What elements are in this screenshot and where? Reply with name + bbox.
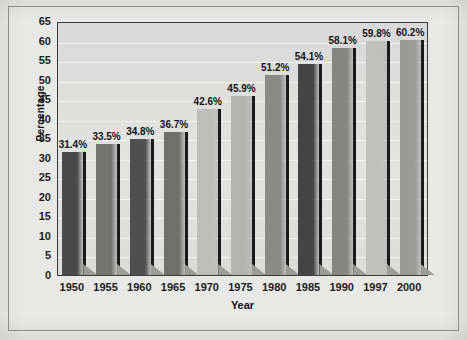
x-axis-tick-label: 1980 [257,282,291,293]
figure-canvas: Percentage 05101520253035404550556065 31… [0,0,467,340]
bar-fill [298,64,319,275]
y-axis-tick-label: 65 [25,16,51,27]
y-axis-tick-label: 0 [25,270,51,281]
y-axis-tick-label: 30 [25,153,51,164]
bar-side-edge [83,152,86,275]
bar-value-label: 60.2% [396,27,424,38]
bar[interactable]: 42.6% [197,109,218,275]
bar-value-label: 42.6% [194,96,222,107]
bar-value-label: 59.8% [362,28,390,39]
bar-fill [400,40,421,275]
y-axis-tick-label: 25 [25,172,51,183]
bar-value-label: 54.1% [295,51,323,62]
bar-value-label: 58.1% [328,35,356,46]
bar-fill [164,132,185,275]
y-axis-tick-label: 50 [25,75,51,86]
bar-fill [130,139,151,275]
y-axis-tick-label: 45 [25,94,51,105]
y-axis-tick-label: 10 [25,231,51,242]
x-axis-tick-label: 1997 [358,282,392,293]
bar-fill [332,48,353,275]
x-axis-tick-label: 1965 [156,282,190,293]
x-axis-tick-label: 1950 [55,282,89,293]
bar[interactable]: 36.7% [164,132,185,275]
bar-side-edge [421,40,424,275]
bar[interactable]: 33.5% [96,144,117,275]
x-axis-tick-label: 1970 [190,282,224,293]
bar[interactable]: 51.2% [265,75,286,275]
bar-value-label: 51.2% [261,62,289,73]
bar-value-label: 31.4% [59,139,87,150]
bar[interactable]: 59.8% [366,41,387,275]
bar-value-label: 34.8% [126,126,154,137]
x-axis-tick-label: 1955 [89,282,123,293]
y-axis-tick-label: 40 [25,114,51,125]
bar-fill [265,75,286,275]
y-axis-tick-label: 20 [25,192,51,203]
x-axis-tick-label: 1990 [325,282,359,293]
bar-side-edge [286,75,289,275]
y-axis-tick-label: 60 [25,36,51,47]
x-axis-tick-label: 1975 [224,282,258,293]
x-axis-tick-label: 1960 [122,282,156,293]
x-axis-tick-label: 1985 [291,282,325,293]
bar-fill [197,109,218,275]
bar[interactable]: 58.1% [332,48,353,275]
bar[interactable]: 34.8% [130,139,151,275]
bar-side-edge [117,144,120,275]
bar-side-edge [185,132,188,275]
bar-fill [366,41,387,275]
bar-value-label: 33.5% [92,131,120,142]
y-axis-tick-label: 15 [25,211,51,222]
bar[interactable]: 31.4% [62,152,83,275]
bar-side-edge [319,64,322,275]
y-axis-tick-label: 5 [25,250,51,261]
plot-area: 31.4%33.5%34.8%36.7%42.6%45.9%51.2%54.1%… [57,22,428,276]
bar[interactable]: 60.2% [400,40,421,275]
bar-value-label: 36.7% [160,119,188,130]
bar[interactable]: 54.1% [298,64,319,275]
bar-side-edge [387,41,390,275]
bar-side-edge [252,96,255,275]
bar-side-edge [151,139,154,275]
bar-fill [231,96,252,275]
bar[interactable]: 45.9% [231,96,252,275]
y-axis-tick-label: 35 [25,133,51,144]
bar-side-edge [218,109,221,275]
bar-value-label: 45.9% [227,83,255,94]
bar-fill [62,152,83,275]
bar-fill [96,144,117,275]
x-axis-tick-label: 2000 [392,282,426,293]
x-axis-title: Year [57,299,428,311]
bar-side-edge [353,48,356,275]
y-axis-tick-label: 55 [25,55,51,66]
